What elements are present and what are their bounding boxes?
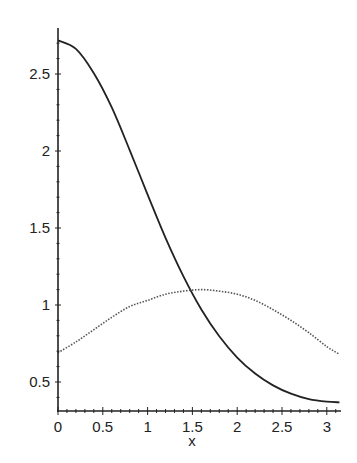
y-tick-label: 0.5 bbox=[29, 373, 50, 390]
x-axis-label: x bbox=[188, 432, 196, 449]
curve-dotted bbox=[58, 290, 339, 355]
y-axis-ticks: 0.511.522.5 bbox=[29, 43, 61, 397]
y-tick-label: 2.5 bbox=[29, 65, 50, 82]
x-tick-label: 0.5 bbox=[92, 418, 113, 435]
x-tick-label: 2 bbox=[233, 418, 241, 435]
x-tick-label: 0 bbox=[54, 418, 62, 435]
y-tick-label: 1 bbox=[42, 296, 50, 313]
y-tick-label: 2 bbox=[42, 142, 50, 159]
x-tick-label: 1 bbox=[143, 418, 151, 435]
curve-solid bbox=[58, 40, 339, 402]
line-chart: 00.511.522.53 0.511.522.5 x bbox=[0, 0, 357, 463]
x-tick-label: 2.5 bbox=[272, 418, 293, 435]
x-tick-label: 3 bbox=[323, 418, 331, 435]
y-tick-label: 1.5 bbox=[29, 219, 50, 236]
plot-curves bbox=[58, 40, 339, 402]
